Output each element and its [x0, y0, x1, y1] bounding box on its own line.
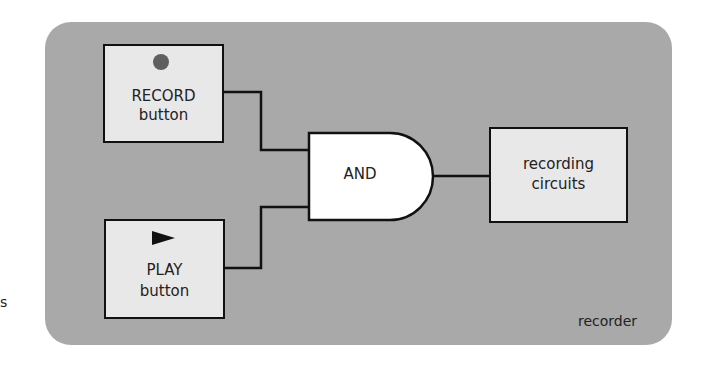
- record-label-line1: RECORD: [105, 86, 222, 106]
- recorder-label: recorder: [578, 313, 637, 329]
- play-label-line1: PLAY: [106, 260, 223, 280]
- play-label-line2: button: [106, 281, 223, 301]
- record-to-gate-wire: [223, 92, 309, 150]
- play-to-gate-wire: [223, 207, 309, 268]
- and-gate-label: AND: [310, 165, 410, 183]
- recording-circuits-box: recording circuits: [489, 127, 628, 223]
- output-label-line2: circuits: [491, 174, 626, 194]
- record-label-line2: button: [105, 105, 222, 125]
- record-dot-icon: [153, 54, 169, 70]
- play-triangle-icon: [150, 229, 178, 247]
- output-label-line1: recording: [491, 154, 626, 174]
